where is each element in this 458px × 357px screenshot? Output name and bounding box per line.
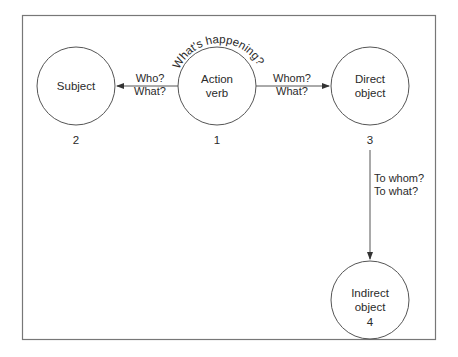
indirect-object-label: Indirect object	[335, 286, 405, 314]
node-number-1: 1	[207, 134, 227, 146]
action-verb-label: Action verb	[182, 72, 252, 100]
edge-label-whom-what: Whom? What?	[270, 72, 314, 98]
direct-object-label: Direct object	[335, 72, 405, 100]
node-number-4: 4	[360, 316, 380, 328]
node-number-3: 3	[360, 134, 380, 146]
node-number-2: 2	[66, 134, 86, 146]
edge-label-to-whom-to-what: To whom? To what?	[374, 172, 434, 198]
edge-label-who-what: Who? What?	[128, 72, 172, 98]
subject-label: Subject	[41, 79, 111, 93]
